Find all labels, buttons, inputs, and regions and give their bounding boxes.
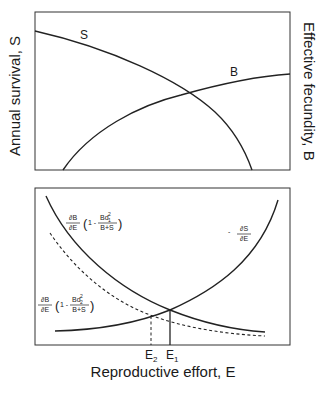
equation-benefit-d2: ∂B ∂E ( 1 - Bd 2 2 B+S ) — [38, 293, 94, 313]
curve-s — [35, 31, 252, 170]
curve-benefit-d2 — [50, 233, 265, 336]
svg-text:∂E: ∂E — [240, 235, 248, 242]
top-panel-frame — [35, 12, 290, 170]
svg-text:-: - — [228, 228, 231, 235]
svg-text:2: 2 — [108, 211, 111, 217]
svg-text:2: 2 — [80, 293, 83, 299]
svg-text:B+S: B+S — [100, 224, 114, 231]
tick-e1: E1 — [166, 348, 179, 364]
y-axis-label-right: Effective fecundity, B — [301, 22, 318, 161]
svg-text:1: 1 — [108, 217, 111, 223]
svg-text:∂E: ∂E — [41, 306, 49, 313]
top-panel: S B Annual survival, S Effective fecundi… — [6, 12, 318, 170]
svg-text:∂B: ∂B — [41, 296, 49, 303]
curve-b-label: B — [230, 65, 238, 79]
equation-cost: - ∂S ∂E — [228, 225, 251, 242]
svg-text:∂B: ∂B — [69, 214, 77, 221]
bottom-panel: ∂B ∂E ( 1 - Bd 1 2 B+S ) ∂B ∂E ( 1 - Bd … — [35, 188, 290, 380]
svg-text:1 -: 1 - — [88, 219, 97, 226]
svg-text:): ) — [118, 216, 122, 231]
curve-s-label: S — [80, 28, 88, 42]
tick-e2: E2 — [145, 348, 158, 364]
figure: S B Annual survival, S Effective fecundi… — [0, 0, 329, 393]
equation-benefit-d1: ∂B ∂E ( 1 - Bd 1 2 B+S ) — [66, 211, 122, 231]
y-axis-label-left: Annual survival, S — [6, 36, 23, 156]
svg-text:1 -: 1 - — [60, 301, 69, 308]
bottom-panel-frame — [35, 188, 290, 345]
x-axis-label: Reproductive effort, E — [91, 363, 236, 380]
svg-text:B+S: B+S — [72, 306, 86, 313]
svg-text:2: 2 — [80, 299, 83, 305]
curve-b — [63, 74, 290, 170]
svg-text:∂E: ∂E — [69, 224, 77, 231]
svg-text:∂S: ∂S — [240, 225, 248, 232]
svg-text:): ) — [90, 298, 94, 313]
